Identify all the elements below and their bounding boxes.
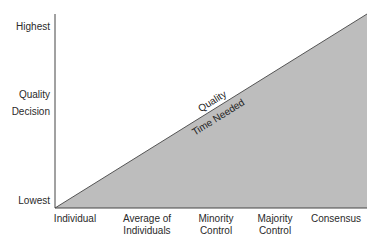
x-label-individual: Individual: [40, 213, 110, 225]
x-label-line1: Average of: [112, 213, 182, 225]
chart-canvas: Quality Time Needed: [0, 0, 380, 242]
x-label-consensus: Consensus: [301, 213, 371, 225]
x-label-line1: Individual: [40, 213, 110, 225]
y-label-highest: Highest: [0, 21, 50, 32]
x-label-line2: Individuals: [112, 225, 182, 237]
y-label-quality: Quality: [0, 89, 50, 100]
x-label-average: Average of Individuals: [112, 213, 182, 237]
y-label-lowest: Lowest: [0, 195, 50, 206]
x-label-majority: Majority Control: [240, 213, 310, 237]
x-label-line1: Consensus: [301, 213, 371, 225]
x-label-line2: Control: [240, 225, 310, 237]
x-label-line1: Majority: [240, 213, 310, 225]
y-label-decision: Decision: [0, 106, 50, 117]
